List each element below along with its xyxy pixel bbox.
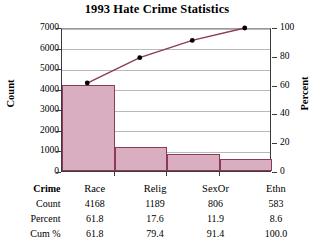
line-marker-ethn xyxy=(242,26,247,31)
table-cell: 583 xyxy=(246,196,306,211)
y-tick-mark-right xyxy=(272,172,277,173)
line-marker-relig xyxy=(137,55,142,60)
y-tick-mark-right xyxy=(272,114,277,115)
data-table: CrimeRaceReligSexOrEthnCount416811898065… xyxy=(0,181,314,241)
table-row-label: Cum % xyxy=(0,226,65,241)
table-row: CrimeRaceReligSexOrEthn xyxy=(0,181,314,196)
y-tick-mark-right xyxy=(272,143,277,144)
line-marker-race xyxy=(85,81,90,86)
y-tick-mark-right xyxy=(272,86,277,87)
x-tick-mark xyxy=(114,172,115,176)
y-tick-label-right: 80 xyxy=(280,52,314,62)
y-tick-label-left: 1000 xyxy=(19,146,59,156)
y-tick-label-right: 0 xyxy=(280,167,314,177)
table-spacer xyxy=(306,196,314,211)
y-tick-mark-left xyxy=(56,110,61,111)
table-cell: 1189 xyxy=(125,196,185,211)
y-tick-label-right: 60 xyxy=(280,81,314,91)
y-tick-mark-left xyxy=(56,90,61,91)
table-cell: 61.8 xyxy=(65,226,125,241)
table-spacer xyxy=(306,211,314,226)
cumulative-line xyxy=(87,28,245,83)
y-tick-mark-left xyxy=(56,28,61,29)
table-spacer xyxy=(306,226,314,241)
x-tick-mark xyxy=(166,172,167,176)
y-tick-mark-left xyxy=(56,69,61,70)
table-row-label: Crime xyxy=(0,181,65,196)
y-axis-left-title: Count xyxy=(5,64,16,124)
y-tick-label-right: 20 xyxy=(280,138,314,148)
table-row-label: Percent xyxy=(0,211,65,226)
table-cell: 91.4 xyxy=(185,226,245,241)
y-tick-label-left: 7000 xyxy=(19,23,59,33)
table-cell: 11.9 xyxy=(185,211,245,226)
y-tick-mark-left xyxy=(56,172,61,173)
cumulative-line-layer xyxy=(61,28,271,172)
table-row: Count41681189806583 xyxy=(0,196,314,211)
y-tick-mark-left xyxy=(56,151,61,152)
table-cell: 4168 xyxy=(65,196,125,211)
table-cell: 806 xyxy=(185,196,245,211)
y-tick-label-left: 5000 xyxy=(19,64,59,74)
table-cell: 61.8 xyxy=(65,211,125,226)
table-column-header: Ethn xyxy=(246,181,306,196)
table-row: Cum %61.879.491.4100.0 xyxy=(0,226,314,241)
y-tick-mark-right xyxy=(272,28,277,29)
y-tick-label-left: 4000 xyxy=(19,85,59,95)
table-cell: 8.6 xyxy=(246,211,306,226)
y-tick-label-right: 100 xyxy=(280,23,314,33)
y-tick-mark-left xyxy=(56,131,61,132)
y-tick-label-left: 0 xyxy=(19,167,59,177)
y-tick-label-right: 40 xyxy=(280,109,314,119)
x-tick-mark xyxy=(219,172,220,176)
y-tick-label-left: 6000 xyxy=(19,44,59,54)
table-cell: 79.4 xyxy=(125,226,185,241)
y-tick-mark-right xyxy=(272,57,277,58)
y-tick-mark-left xyxy=(56,49,61,50)
table-cell: 100.0 xyxy=(246,226,306,241)
pareto-chart: 1993 Hate Crime Statistics Count Percent… xyxy=(0,0,314,249)
table-row-label: Count xyxy=(0,196,65,211)
chart-title: 1993 Hate Crime Statistics xyxy=(0,2,314,17)
y-tick-label-left: 2000 xyxy=(19,126,59,136)
table-column-header: SexOr xyxy=(185,181,245,196)
table-column-header: Relig xyxy=(125,181,185,196)
table-column-header: Race xyxy=(65,181,125,196)
table-row: Percent61.817.611.98.6 xyxy=(0,211,314,226)
table-spacer xyxy=(306,181,314,196)
line-marker-sexor xyxy=(190,38,195,43)
y-tick-label-left: 3000 xyxy=(19,105,59,115)
table-cell: 17.6 xyxy=(125,211,185,226)
